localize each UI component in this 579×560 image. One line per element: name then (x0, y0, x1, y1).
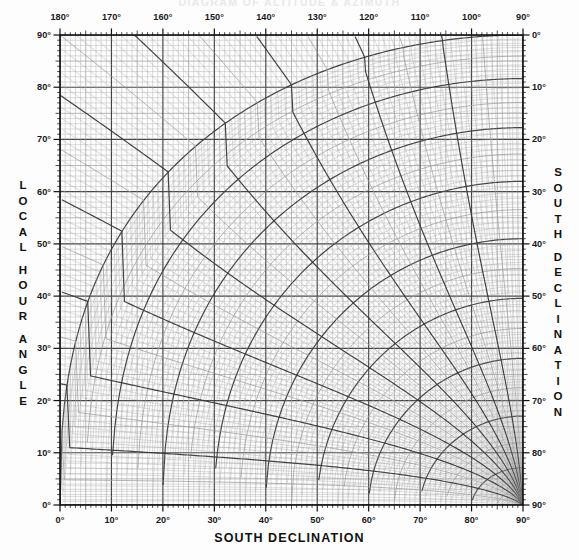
axis-title-letter: L (14, 378, 32, 394)
axis-title-letter: C (549, 281, 567, 297)
top-tick-label: 180° (50, 12, 69, 22)
left-tick-label: 80° (37, 82, 51, 92)
bottom-tick-label: 0° (56, 515, 65, 525)
axis-title-letter (14, 325, 32, 332)
left-tick-label: 20° (37, 396, 51, 406)
right-tick-label: 60° (532, 343, 546, 353)
right-tick-label: 50° (532, 291, 546, 301)
top-tick-label: 130° (308, 12, 327, 22)
left-tick-label: 0° (42, 500, 51, 510)
top-tick-label: 90° (516, 12, 530, 22)
top-tick-label: 100° (462, 12, 481, 22)
left-tick-label: 70° (37, 134, 51, 144)
axis-title-letter: I (549, 374, 567, 390)
left-tick-label: 10° (37, 448, 51, 458)
right-tick-label: 20° (532, 134, 546, 144)
axis-title-letter: A (14, 332, 32, 348)
top-tick-label: 170° (102, 12, 121, 22)
axis-title-letter: U (14, 294, 32, 310)
bottom-tick-label: 80° (465, 515, 479, 525)
axis-title-letter: O (549, 181, 567, 197)
top-tick-label: 160° (153, 12, 172, 22)
top-tick-label: 110° (411, 12, 430, 22)
axis-title-letter: N (549, 327, 567, 343)
axis-title-letter: N (14, 347, 32, 363)
axis-title-letter: A (549, 343, 567, 359)
top-tick-label: 150° (205, 12, 224, 22)
axis-title-letter: T (549, 212, 567, 228)
right-tick-label: 70° (532, 396, 546, 406)
axis-title-letter: U (549, 196, 567, 212)
bottom-tick-label: 60° (362, 515, 376, 525)
bottom-tick-label: 30° (207, 515, 221, 525)
axis-title-letter: L (14, 178, 32, 194)
left-tick-label: 30° (37, 343, 51, 353)
axis-title-letter: I (549, 312, 567, 328)
right-tick-label: 30° (532, 187, 546, 197)
axis-title-letter: T (549, 358, 567, 374)
nomogram-plot (0, 0, 579, 560)
axis-title-letter: S (549, 165, 567, 181)
right-tick-label: 90° (532, 500, 546, 510)
axis-title-letter: L (549, 296, 567, 312)
left-tick-label: 50° (37, 239, 51, 249)
axis-title-letter: A (14, 225, 32, 241)
bottom-tick-label: 50° (310, 515, 324, 525)
left-tick-label: 90° (37, 30, 51, 40)
top-tick-label: 120° (359, 12, 378, 22)
right-tick-label: 80° (532, 448, 546, 458)
axis-title-letter: H (14, 263, 32, 279)
bottom-tick-label: 70° (413, 515, 427, 525)
axis-title-letter: O (549, 389, 567, 405)
bottom-tick-label: 10° (104, 515, 118, 525)
bottom-tick-label: 20° (156, 515, 170, 525)
left-tick-label: 60° (37, 187, 51, 197)
nomogram-chart: DIAGRAM OF ALTITUDE & AZIMUTH LOCALHOURA… (0, 0, 579, 560)
top-tick-label: 140° (256, 12, 275, 22)
bottom-tick-label: 40° (259, 515, 273, 525)
axis-title-letter: E (549, 265, 567, 281)
axis-title-letter: L (14, 240, 32, 256)
bottom-axis-title: SOUTH DECLINATION (214, 531, 364, 545)
axis-title-letter: E (14, 394, 32, 410)
axis-title-letter: N (549, 405, 567, 421)
axis-title-letter: G (14, 363, 32, 379)
axis-title-letter: O (14, 278, 32, 294)
left-tick-label: 40° (37, 291, 51, 301)
right-tick-label: 40° (532, 239, 546, 249)
axis-title-letter (549, 243, 567, 250)
axis-title-letter (14, 256, 32, 263)
axis-title-letter: O (14, 194, 32, 210)
axis-title-letter: R (14, 309, 32, 325)
right-tick-label: 0° (532, 30, 541, 40)
axis-title-letter: H (549, 227, 567, 243)
axis-title-letter: D (549, 250, 567, 266)
axis-title-letter: C (14, 209, 32, 225)
bottom-tick-label: 90° (516, 515, 530, 525)
right-axis-title: SOUTHDECLINATION (549, 165, 567, 420)
right-tick-label: 10° (532, 82, 546, 92)
left-axis-title: LOCALHOURANGLE (14, 178, 32, 409)
